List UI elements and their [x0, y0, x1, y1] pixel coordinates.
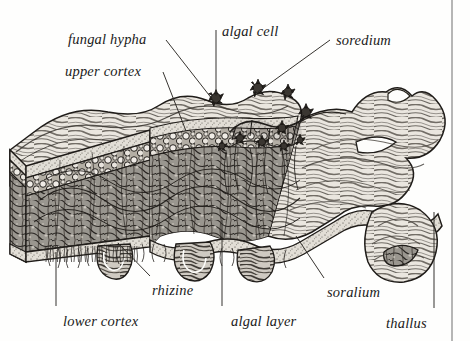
lichen-diagram-figure: fungal hypha algal cell soredium upper c…: [0, 0, 470, 341]
label-algal-cell: algal cell: [222, 24, 278, 39]
label-algal-layer: algal layer: [231, 314, 296, 329]
label-soredium: soredium: [336, 33, 391, 48]
label-soralium: soralium: [327, 285, 380, 300]
label-lower-cortex: lower cortex: [63, 314, 138, 329]
lichen-illustration: [0, 0, 470, 341]
label-thallus: thallus: [386, 316, 427, 331]
cut-face-left: [10, 150, 26, 262]
label-fungal-hypha: fungal hypha: [68, 32, 147, 47]
label-upper-cortex: upper cortex: [65, 64, 141, 79]
thallus-tip-lobe: [365, 203, 437, 282]
label-rhizine: rhizine: [152, 283, 193, 298]
